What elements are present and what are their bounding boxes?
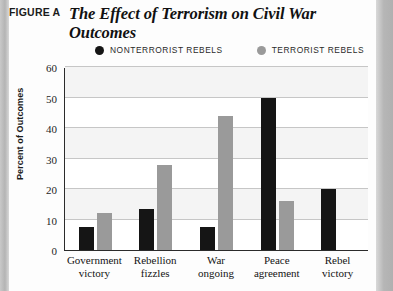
x-axis-label-line: victory	[64, 267, 125, 280]
x-axis-label: Rebelvictory	[307, 254, 368, 279]
bar	[79, 227, 94, 250]
bar	[261, 98, 276, 251]
bar	[321, 189, 336, 250]
y-axis-tick: 60	[46, 62, 57, 74]
bar	[200, 227, 215, 250]
legend-item: TERRORIST REBELS	[257, 45, 364, 55]
x-axis-label-line: War	[186, 254, 247, 267]
filled-circle-icon	[95, 46, 104, 55]
x-axis-label: Peaceagreement	[246, 254, 307, 279]
x-axis-label-line: agreement	[246, 267, 307, 280]
chart-legend: NONTERRORIST REBELSTERRORIST REBELS	[95, 45, 364, 55]
legend-label: NONTERRORIST REBELS	[110, 45, 223, 55]
x-axis-labels: GovernmentvictoryRebellionfizzlesWarongo…	[64, 254, 368, 279]
legend-label: TERRORIST REBELS	[272, 45, 364, 55]
y-axis-tick: 0	[52, 245, 58, 257]
x-axis-label-line: Government	[64, 254, 125, 267]
y-axis-tick: 40	[46, 123, 57, 135]
x-axis-label: Governmentvictory	[64, 254, 125, 279]
bar-group	[307, 68, 368, 250]
x-axis-label: Warongoing	[186, 254, 247, 279]
y-axis-tick: 30	[46, 154, 57, 166]
x-axis-label-line: Rebel	[307, 254, 368, 267]
x-axis-label-line: Peace	[246, 254, 307, 267]
y-axis-tick: 10	[46, 215, 57, 227]
x-axis-label-line: ongoing	[186, 267, 247, 280]
figure-header: FIGURE A The Effect of Terrorism on Civi…	[9, 4, 369, 42]
bar-group	[186, 68, 247, 250]
x-axis-label: Rebellionfizzles	[125, 254, 186, 279]
gridline	[65, 66, 368, 67]
y-axis-tick: 50	[46, 93, 57, 105]
bar-group	[65, 68, 126, 250]
bar	[139, 209, 154, 250]
legend-item: NONTERRORIST REBELS	[95, 45, 223, 55]
x-axis-label-line: Rebellion	[125, 254, 186, 267]
page-edge-left	[0, 0, 9, 291]
plot-area	[64, 68, 368, 251]
chart-area: Percent of Outcomes 6050403020100 Govern…	[9, 68, 376, 291]
figure-label: FIGURE A	[9, 4, 69, 18]
y-axis-label: Percent of Outcomes	[15, 88, 25, 180]
x-axis-label-line: victory	[307, 267, 368, 280]
bar	[279, 201, 294, 250]
bar-group	[247, 68, 308, 250]
filled-circle-icon	[257, 46, 266, 55]
bar-group	[126, 68, 187, 250]
page-edge-right	[376, 0, 393, 291]
y-axis-ticks: 6050403020100	[31, 68, 61, 251]
bar	[218, 116, 233, 250]
x-axis-label-line: fizzles	[125, 267, 186, 280]
y-axis-tick: 20	[46, 184, 57, 196]
figure-title: The Effect of Terrorism on Civil War Out…	[69, 4, 369, 42]
bar	[97, 213, 112, 250]
bar-groups	[65, 68, 368, 250]
bar	[157, 165, 172, 250]
